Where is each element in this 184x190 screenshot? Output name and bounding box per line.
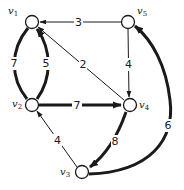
edge-v3-v2: 4 bbox=[37, 111, 77, 167]
node-v1: v1 bbox=[8, 5, 39, 29]
edge-v5-v1: 3 bbox=[40, 15, 121, 29]
edge-weight-label: 4 bbox=[54, 134, 61, 147]
node-v2: v2 bbox=[12, 98, 39, 112]
edge-v2-v4: 7 bbox=[39, 98, 121, 112]
node-label: v2 bbox=[12, 98, 22, 111]
edge-v1-v2: 7 bbox=[9, 28, 28, 99]
edge-v4-v3: 8 bbox=[90, 112, 126, 167]
edge-weight-label: 6 bbox=[165, 119, 172, 132]
node-label: v4 bbox=[139, 99, 150, 112]
edge-weight-label: 8 bbox=[112, 135, 119, 148]
node-label: v5 bbox=[137, 5, 147, 18]
graph-diagram: 3 2 4 7 5 7 8 6 bbox=[0, 0, 184, 190]
edge-weight-label: 4 bbox=[125, 58, 132, 71]
edge-weight-label: 7 bbox=[74, 99, 81, 112]
edge-v5-v4: 4 bbox=[124, 29, 133, 97]
edge-v2-v1: 5 bbox=[37, 29, 51, 99]
node-label: v1 bbox=[8, 5, 18, 18]
edge-weight-label: 3 bbox=[75, 16, 82, 29]
node-v5: v5 bbox=[122, 5, 148, 29]
node-label: v3 bbox=[60, 166, 70, 179]
edge-weight-label: 7 bbox=[11, 57, 18, 70]
edge-weight-label: 2 bbox=[80, 58, 87, 71]
node-v4: v4 bbox=[124, 99, 150, 113]
edge-weight-label: 5 bbox=[43, 57, 50, 70]
node-v3: v3 bbox=[60, 166, 89, 180]
